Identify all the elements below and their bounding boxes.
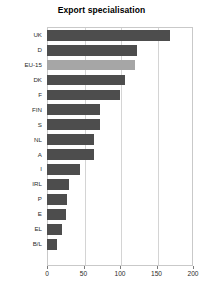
bar-f	[47, 90, 120, 101]
bar-row	[47, 118, 193, 133]
chart-figure: Export specialisation UKDEU-15DKFFINSNLA…	[0, 0, 203, 300]
bar-dk	[47, 75, 125, 86]
category-label-irl: IRL	[0, 177, 44, 192]
bars-layer	[47, 27, 193, 266]
bar-row	[47, 73, 193, 88]
bar-row	[47, 88, 193, 103]
x-axis: 050100150200	[47, 266, 193, 286]
x-tick-label: 50	[80, 270, 87, 277]
category-axis-labels: UKDEU-15DKFFINSNLAIIRLPEELB/L	[0, 27, 44, 266]
x-tick-label: 0	[45, 270, 49, 277]
bar-s	[47, 119, 100, 130]
bar-eu-15	[47, 60, 135, 71]
category-label-uk: UK	[0, 28, 44, 43]
x-tick-mark	[157, 266, 158, 269]
category-label-f: F	[0, 88, 44, 103]
bar-row	[47, 148, 193, 163]
category-label-b-l: B/L	[0, 237, 44, 252]
bar-nl	[47, 134, 94, 145]
category-label-p: P	[0, 192, 44, 207]
bar-fin	[47, 104, 100, 115]
category-label-eu-15: EU-15	[0, 58, 44, 73]
x-tick-mark	[193, 266, 194, 269]
category-label-e: E	[0, 207, 44, 222]
bar-d	[47, 45, 137, 56]
bar-row	[47, 207, 193, 222]
bar-row	[47, 28, 193, 43]
bar-uk	[47, 30, 170, 41]
bar-row	[47, 43, 193, 58]
category-label-i: I	[0, 162, 44, 177]
bar-row	[47, 133, 193, 148]
x-tick-mark	[47, 266, 48, 269]
bar-irl	[47, 179, 69, 190]
x-tick-label: 100	[114, 270, 125, 277]
bar-row	[47, 237, 193, 252]
bar-e	[47, 209, 66, 220]
category-label-nl: NL	[0, 133, 44, 148]
x-tick-label: 200	[187, 270, 198, 277]
bar-row	[47, 222, 193, 237]
x-tick-mark	[84, 266, 85, 269]
bar-p	[47, 194, 67, 205]
bar-b-l	[47, 239, 57, 250]
bar-a	[47, 149, 94, 160]
bar-el	[47, 224, 62, 235]
category-label-d: D	[0, 43, 44, 58]
chart-title: Export specialisation	[0, 5, 203, 15]
category-label-fin: FIN	[0, 103, 44, 118]
x-tick-mark	[120, 266, 121, 269]
bar-row	[47, 177, 193, 192]
bar-row	[47, 58, 193, 73]
x-tick-label: 150	[151, 270, 162, 277]
category-label-s: S	[0, 118, 44, 133]
bar-row	[47, 192, 193, 207]
category-label-a: A	[0, 148, 44, 163]
category-label-dk: DK	[0, 73, 44, 88]
bar-row	[47, 162, 193, 177]
bar-row	[47, 103, 193, 118]
bar-i	[47, 164, 80, 175]
category-label-el: EL	[0, 222, 44, 237]
